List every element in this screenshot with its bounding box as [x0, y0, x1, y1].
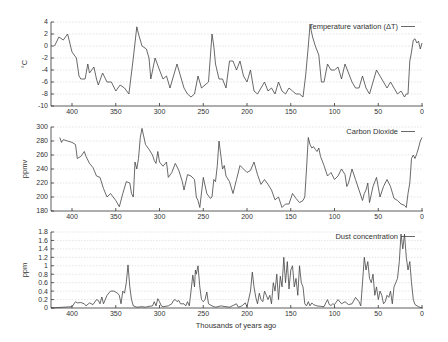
x-tick-label: 400 — [66, 213, 78, 220]
x-tick-label: 300 — [154, 108, 166, 115]
legend-label: Dust concentration — [335, 232, 398, 241]
x-axis-label: Thousands of years ago — [176, 321, 296, 330]
y-tick-label: -8 — [42, 90, 48, 97]
x-tick-label: 150 — [285, 213, 297, 220]
x-tick-label: 250 — [197, 310, 209, 317]
axes — [51, 22, 423, 106]
x-tick-label: 350 — [110, 310, 122, 317]
y-tick-label: 0 — [44, 42, 48, 49]
x-tick-label: 50 — [374, 310, 382, 317]
y-tick-label: 1.8 — [38, 228, 48, 235]
x-tick-label: 0 — [420, 108, 424, 115]
x-tick-label: 100 — [329, 310, 341, 317]
y-axis-label: °C — [20, 59, 29, 68]
legend-label: Temperature variation (ΔT) — [309, 22, 399, 31]
y-tick-label: 1.6 — [38, 237, 48, 244]
y-tick-label: 2 — [44, 30, 48, 37]
x-tick-label: 200 — [241, 108, 253, 115]
x-tick-label: 350 — [110, 213, 122, 220]
x-tick-label: 300 — [154, 213, 166, 220]
y-axis-label: ppm — [20, 263, 29, 278]
y-tick-label: 240 — [36, 165, 48, 172]
legend-label: Carbon Dioxide — [346, 127, 398, 136]
y-tick-label: -2 — [42, 54, 48, 61]
panel-3: 1.81.61.41.210.80.60.40.2040035030025020… — [20, 228, 424, 317]
y-tick-label: -10 — [38, 102, 48, 109]
y-tick-label: 0 — [44, 304, 48, 311]
data-series-line — [60, 128, 422, 207]
y-tick-label: 180 — [36, 207, 48, 214]
y-axis-label: ppmv — [20, 160, 29, 179]
y-tick-label: 1.2 — [38, 254, 48, 261]
y-tick-label: 300 — [36, 123, 48, 130]
x-tick-label: 150 — [285, 108, 297, 115]
x-tick-label: 250 — [197, 213, 209, 220]
y-tick-label: 1 — [44, 262, 48, 269]
x-tick-label: 50 — [374, 213, 382, 220]
x-tick-label: 50 — [374, 108, 382, 115]
y-tick-label: 0.4 — [38, 288, 48, 295]
x-tick-label: 400 — [66, 310, 78, 317]
x-tick-label: 300 — [154, 310, 166, 317]
x-tick-label: 0 — [420, 310, 424, 317]
y-tick-label: 0.8 — [38, 271, 48, 278]
y-tick-label: 220 — [36, 179, 48, 186]
y-tick-label: 0.2 — [38, 296, 48, 303]
x-tick-label: 400 — [66, 108, 78, 115]
x-tick-label: 350 — [110, 108, 122, 115]
x-tick-label: 200 — [241, 310, 253, 317]
x-tick-label: 100 — [329, 213, 341, 220]
x-tick-label: 250 — [197, 108, 209, 115]
panel-2: 3002802602402202001804003503002502001501… — [20, 123, 424, 220]
y-tick-label: -6 — [42, 78, 48, 85]
panel-1: 420-2-4-6-8-10400350300250200150100500°C… — [20, 18, 424, 115]
y-tick-label: 260 — [36, 151, 48, 158]
x-tick-label: 200 — [241, 213, 253, 220]
x-tick-label: 0 — [420, 213, 424, 220]
ice-core-chart: 420-2-4-6-8-10400350300250200150100500°C… — [0, 0, 448, 342]
y-tick-label: 0.6 — [38, 279, 48, 286]
y-tick-label: 280 — [36, 137, 48, 144]
y-tick-label: 200 — [36, 193, 48, 200]
y-tick-label: 1.4 — [38, 245, 48, 252]
x-tick-label: 150 — [285, 310, 297, 317]
y-tick-label: 4 — [44, 18, 48, 25]
x-tick-label: 100 — [329, 108, 341, 115]
data-series-line — [51, 234, 422, 308]
data-series-line — [55, 25, 423, 97]
y-tick-label: -4 — [42, 66, 48, 73]
